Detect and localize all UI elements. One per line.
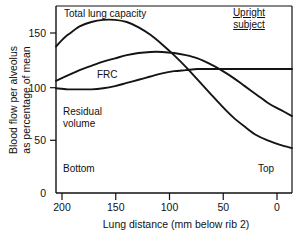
- chart-figure: 150 100 50 0 200 150 100 50 0 Lung dista…: [0, 0, 306, 234]
- note-upright-line2: subject: [233, 19, 265, 30]
- label-residual-volume-line2: volume: [63, 118, 96, 129]
- note-upright-line1: Upright: [233, 7, 265, 18]
- x-tick-label-200: 200: [53, 201, 71, 213]
- x-tick-label-150: 150: [107, 201, 125, 213]
- x-tick-label-100: 100: [161, 201, 179, 213]
- y-axis-title-line1: Blood flow per alveolus: [7, 46, 19, 154]
- label-residual-volume-line1: Residual: [63, 106, 102, 117]
- label-bottom: Bottom: [63, 163, 95, 174]
- series-residual-volume: [56, 69, 292, 89]
- label-top: Top: [258, 163, 275, 174]
- y-tick-label-50: 50: [34, 134, 46, 146]
- y-axis-title-line2: as percentage of mean: [20, 46, 32, 154]
- x-tick-label-50: 50: [217, 201, 229, 213]
- label-frc: FRC: [97, 69, 118, 80]
- label-total-lung-capacity: Total lung capacity: [64, 8, 146, 19]
- chart-svg: 150 100 50 0 200 150 100 50 0 Lung dista…: [0, 0, 306, 234]
- y-tick-label-0: 0: [40, 187, 46, 199]
- x-tick-label-0: 0: [274, 201, 280, 213]
- x-axis-title: Lung distance (mm below rib 2): [103, 218, 249, 230]
- y-tick-label-150: 150: [28, 27, 46, 39]
